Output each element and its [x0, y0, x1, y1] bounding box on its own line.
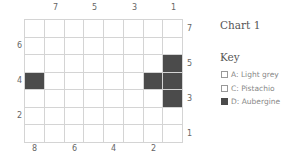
grid-cell [84, 20, 104, 38]
top-label: 1 [171, 4, 176, 12]
grid-cell [45, 73, 65, 91]
key-heading: Key [220, 51, 240, 63]
right-label: 5 [187, 60, 192, 68]
swatch-icon [221, 98, 228, 105]
top-label: 5 [92, 4, 97, 12]
top-label: 3 [132, 4, 137, 12]
grid-cell [163, 90, 183, 108]
grid-cell [65, 108, 85, 126]
grid-cell [45, 38, 65, 56]
grid-cell [25, 38, 45, 56]
grid-cell [124, 125, 144, 143]
grid-cell [45, 108, 65, 126]
grid-cell [104, 125, 124, 143]
left-label: 4 [17, 77, 22, 85]
stitch-grid [24, 19, 183, 143]
grid-cell [65, 55, 85, 73]
bottom-label: 6 [72, 145, 77, 153]
grid-cell [84, 38, 104, 56]
grid-cell [144, 20, 164, 38]
grid-cell [104, 73, 124, 91]
legend: A: Light grey C: Pistachio D: Aubergine [221, 68, 280, 109]
grid-cell [45, 90, 65, 108]
legend-label: A: Light grey [231, 70, 279, 79]
grid-cell [84, 125, 104, 143]
grid-cell [104, 108, 124, 126]
grid-cell [45, 55, 65, 73]
grid-cell [163, 73, 183, 91]
grid-cell [144, 55, 164, 73]
grid-cell [144, 108, 164, 126]
grid-cell [25, 108, 45, 126]
grid-cell [65, 38, 85, 56]
legend-label: D: Aubergine [231, 97, 280, 106]
grid-cell [84, 73, 104, 91]
grid-cell [144, 38, 164, 56]
top-label: 7 [53, 4, 58, 12]
bottom-label: 2 [151, 145, 156, 153]
grid-cell [104, 55, 124, 73]
grid-cell [163, 125, 183, 143]
grid-cell [124, 38, 144, 56]
right-label: 1 [187, 130, 192, 138]
grid-cell [163, 38, 183, 56]
legend-item-pistachio: C: Pistachio [221, 82, 280, 96]
right-label: 3 [187, 95, 192, 103]
grid-cell [25, 20, 45, 38]
grid-cell [104, 20, 124, 38]
legend-item-aubergine: D: Aubergine [221, 95, 280, 109]
chart-title: Chart 1 [220, 19, 260, 31]
legend-item-light-grey: A: Light grey [221, 68, 280, 82]
grid-cell [163, 20, 183, 38]
grid-cell [25, 55, 45, 73]
grid-cell [144, 90, 164, 108]
grid-cell [25, 73, 45, 91]
grid-cell [124, 90, 144, 108]
grid-cell [65, 90, 85, 108]
swatch-icon [221, 71, 228, 78]
grid-cell [124, 55, 144, 73]
grid-cell [124, 108, 144, 126]
grid-cell [144, 73, 164, 91]
grid-cell [65, 20, 85, 38]
grid-cell [84, 108, 104, 126]
grid-cell [104, 38, 124, 56]
grid-cell [124, 20, 144, 38]
grid-cell [65, 73, 85, 91]
left-label: 2 [17, 112, 22, 120]
grid-cell [84, 90, 104, 108]
legend-label: C: Pistachio [231, 84, 275, 93]
grid-cell [45, 125, 65, 143]
grid-cell [84, 55, 104, 73]
bottom-label: 8 [32, 145, 37, 153]
right-label: 7 [187, 25, 192, 33]
grid-cell [65, 125, 85, 143]
grid-cell [124, 73, 144, 91]
grid-cell [25, 90, 45, 108]
grid-cell [25, 125, 45, 143]
swatch-icon [221, 85, 228, 92]
grid-cell [45, 20, 65, 38]
grid-cell [163, 55, 183, 73]
left-label: 6 [17, 42, 22, 50]
grid-cell [144, 125, 164, 143]
bottom-label: 4 [111, 145, 116, 153]
grid-cell [163, 108, 183, 126]
grid-cell [104, 90, 124, 108]
